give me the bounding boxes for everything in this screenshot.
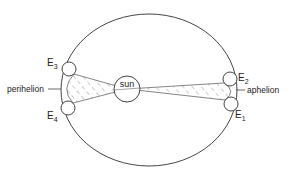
label-e2: E2 bbox=[238, 72, 249, 85]
earth-e2 bbox=[223, 72, 237, 86]
label-e1: E1 bbox=[235, 109, 246, 122]
orbit-diagram: sun E3 E4 E2 E1 perihelion aphelion bbox=[0, 0, 289, 173]
label-e4: E4 bbox=[47, 110, 58, 123]
perihelion-label: perihelion bbox=[7, 84, 44, 94]
sun-label: sun bbox=[120, 79, 135, 89]
aphelion-label: aphelion bbox=[247, 85, 279, 95]
swept-area-aphelion bbox=[127, 83, 231, 100]
earth-e4 bbox=[61, 101, 75, 115]
label-e3: E3 bbox=[47, 57, 58, 70]
earth-e3 bbox=[62, 62, 76, 76]
